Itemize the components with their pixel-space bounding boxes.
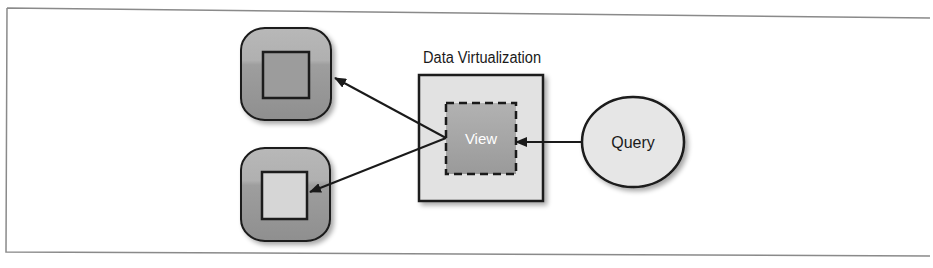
database-record-square <box>262 172 307 219</box>
data-virtualization-title: Data Virtualization <box>423 49 541 66</box>
source-database-2 <box>241 148 330 241</box>
source-database-1 <box>241 28 331 120</box>
database-record-square <box>263 52 309 98</box>
data-virtualization-diagram: Data Virtualization View Query <box>0 0 933 268</box>
query-label: Query <box>611 134 655 151</box>
view-label: View <box>465 130 497 147</box>
